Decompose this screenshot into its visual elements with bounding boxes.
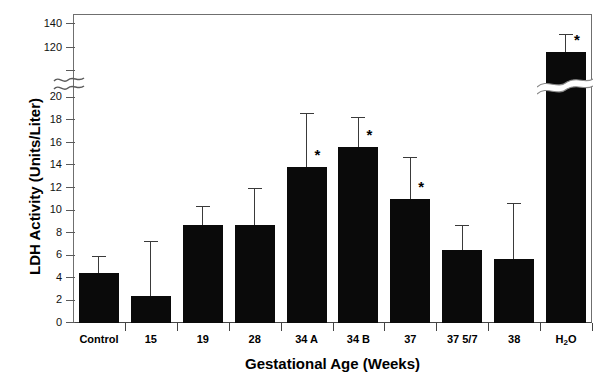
bar-19 bbox=[183, 225, 223, 323]
y-tick-mark bbox=[66, 210, 75, 211]
y-tick-mark bbox=[66, 322, 75, 323]
x-tick-mark bbox=[540, 323, 541, 331]
y-tick-label: 0 bbox=[36, 316, 62, 328]
y-tick-label: 12 bbox=[36, 181, 62, 193]
error-bar-cap bbox=[507, 203, 521, 204]
bar-37-5-7 bbox=[442, 250, 482, 323]
significance-star: * bbox=[574, 32, 580, 47]
y-tick-mark bbox=[66, 97, 75, 98]
y-tick-label: 8 bbox=[36, 226, 62, 238]
error-bar-line bbox=[358, 117, 359, 147]
bar-15 bbox=[131, 296, 171, 323]
y-tick-label: 120 bbox=[36, 41, 62, 53]
y-tick-mark bbox=[66, 255, 75, 256]
x-tick-mark bbox=[333, 323, 334, 331]
bar-38 bbox=[494, 259, 534, 323]
x-axis-title: Gestational Age (Weeks) bbox=[73, 355, 592, 372]
x-tick-mark bbox=[384, 323, 385, 331]
bar-34-a bbox=[287, 167, 327, 323]
bar-37 bbox=[390, 199, 430, 323]
y-tick-label: 14 bbox=[36, 158, 62, 170]
x-tick-mark bbox=[229, 323, 230, 331]
error-bar-line bbox=[306, 113, 307, 167]
error-bar-cap bbox=[248, 188, 262, 189]
y-tick-label: 4 bbox=[36, 271, 62, 283]
y-tick-mark bbox=[66, 187, 75, 188]
significance-star: * bbox=[418, 179, 424, 194]
significance-star: * bbox=[366, 127, 372, 142]
error-bar-cap bbox=[196, 206, 210, 207]
error-bar-cap bbox=[351, 117, 365, 118]
y-tick-mark bbox=[66, 119, 75, 120]
error-bar-line bbox=[202, 206, 203, 225]
y-tick-label: 16 bbox=[36, 136, 62, 148]
error-bar-cap bbox=[403, 157, 417, 158]
error-bar-line bbox=[462, 225, 463, 250]
error-bar-cap bbox=[92, 256, 106, 257]
error-bar-line bbox=[150, 241, 151, 296]
y-tick-mark bbox=[66, 47, 75, 48]
error-bar-cap bbox=[455, 225, 469, 226]
error-bar-cap bbox=[144, 241, 158, 242]
x-tick-mark bbox=[488, 323, 489, 331]
bar-34-b bbox=[338, 147, 378, 323]
y-tick-mark bbox=[66, 142, 75, 143]
x-tick-mark bbox=[436, 323, 437, 331]
y-tick-label: 10 bbox=[36, 203, 62, 215]
error-bar-line bbox=[565, 34, 566, 53]
y-tick-label: 20 bbox=[36, 90, 62, 102]
y-tick-mark bbox=[66, 70, 75, 71]
y-tick-label: 6 bbox=[36, 248, 62, 260]
significance-star: * bbox=[315, 147, 321, 162]
y-tick-mark bbox=[66, 23, 75, 24]
y-tick-label: 2 bbox=[36, 293, 62, 305]
x-tick-mark bbox=[177, 323, 178, 331]
y-tick-label: 140 bbox=[36, 17, 62, 29]
bar-28 bbox=[235, 225, 275, 323]
error-bar-cap bbox=[300, 113, 314, 114]
y-tick-mark bbox=[66, 232, 75, 233]
bar-h2o bbox=[546, 52, 586, 323]
bar-control bbox=[79, 273, 119, 323]
y-tick-mark bbox=[66, 277, 75, 278]
x-tick-mark bbox=[592, 323, 593, 331]
y-tick-label: 18 bbox=[36, 113, 62, 125]
x-tick-mark bbox=[281, 323, 282, 331]
y-tick-mark bbox=[66, 164, 75, 165]
error-bar-line bbox=[254, 188, 255, 225]
error-bar-line bbox=[513, 203, 514, 258]
x-tick-label-h2o: H2O bbox=[526, 333, 606, 347]
x-tick-mark bbox=[125, 323, 126, 331]
error-bar-line bbox=[410, 157, 411, 199]
chart-figure: LDH Activity (Units/Liter) 0246810121416… bbox=[0, 0, 607, 380]
error-bar-line bbox=[98, 256, 99, 273]
y-tick-mark bbox=[66, 300, 75, 301]
error-bar-cap bbox=[559, 34, 573, 35]
